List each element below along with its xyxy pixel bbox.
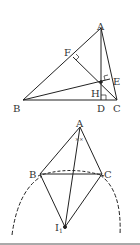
figure-excenter: ×× [12,127,120,235]
right-angle-d [101,95,106,100]
label-c2: C [104,169,112,180]
triangle-abc [23,28,117,100]
label-d: D [97,103,105,114]
figure-triangle-altitudes [23,28,117,100]
label-i1: I1 [55,222,63,234]
label-h: H [91,88,100,99]
label-b2: B [29,169,36,180]
triangle-abc-2 [40,127,102,174]
geometry-diagram: A B C D E F H ×× A B C I1 [0,0,140,245]
label-a: A [96,21,105,32]
dashed-arc-c [100,175,120,235]
line-b-i1 [40,174,65,227]
dashed-arc-b [12,176,42,235]
line-c-i1 [65,174,102,227]
orthocenter-h [100,81,103,84]
dashed-arc-top [38,171,104,177]
label-b: B [13,103,20,114]
label-f: F [64,47,71,58]
excenter-i1 [64,226,67,229]
right-angle-f [76,54,79,60]
angle-mark-a: ×× [75,136,83,142]
label-a2: A [75,118,84,129]
label-e: E [113,76,120,87]
label-c: C [113,103,121,114]
